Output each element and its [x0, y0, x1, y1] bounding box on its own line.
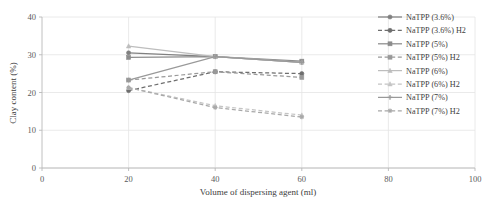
- x-tick-20: 20: [124, 174, 133, 184]
- y-tick-10: 10: [28, 125, 37, 135]
- legend: NaTPP (3.6%)NaTPP (3.6%) H2NaTPP (5%)NaT…: [378, 13, 466, 116]
- y-tick-0: 0: [32, 163, 36, 173]
- legend-label-3: NaTPP (5%) H2: [406, 53, 460, 62]
- y-tick-20: 20: [28, 88, 37, 98]
- legend-label-6: NaTPP (7%): [406, 93, 448, 102]
- legend-label-2: NaTPP (5%): [406, 40, 448, 49]
- legend-item-5[interactable]: NaTPP (6%) H2: [378, 80, 460, 89]
- legend-item-0[interactable]: NaTPP (3.6%): [378, 13, 454, 22]
- legend-item-7[interactable]: NaTPP (7%) H2: [378, 107, 460, 116]
- x-tick-80: 80: [384, 174, 393, 184]
- legend-item-1[interactable]: NaTPP (3.6%) H2: [378, 26, 466, 35]
- x-tick-100: 100: [469, 174, 482, 184]
- x-tick-40: 40: [211, 174, 220, 184]
- x-tick-0: 0: [40, 174, 44, 184]
- legend-label-4: NaTPP (6%): [406, 67, 448, 76]
- legend-label-5: NaTPP (6%) H2: [406, 80, 460, 89]
- y-tick-40: 40: [28, 12, 37, 22]
- legend-label-7: NaTPP (7%) H2: [406, 107, 460, 116]
- y-axis-title: Clay content (%): [8, 62, 18, 123]
- x-tick-60: 60: [298, 174, 307, 184]
- y-tick-30: 30: [28, 50, 37, 60]
- line-chart: 010203040 020406080100 NaTPP (3.6%)NaTPP…: [0, 0, 501, 201]
- x-axis-title: Volume of dispersing agent (ml): [200, 187, 316, 197]
- y-tick-labels: 010203040: [28, 12, 37, 173]
- legend-label-1: NaTPP (3.6%) H2: [406, 26, 466, 35]
- chart-container: 010203040 020406080100 NaTPP (3.6%)NaTPP…: [0, 0, 501, 201]
- legend-label-0: NaTPP (3.6%): [406, 13, 454, 22]
- x-tick-labels: 020406080100: [40, 174, 482, 184]
